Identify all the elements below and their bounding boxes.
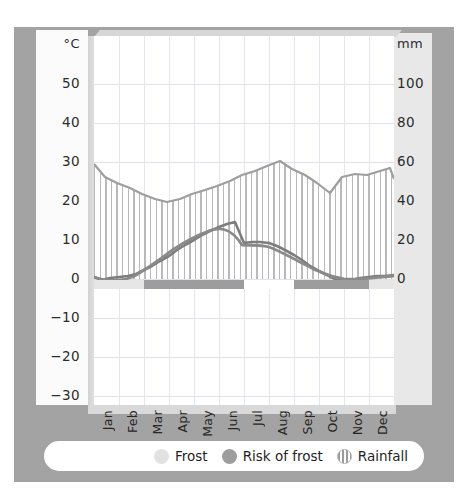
right-axis-tick-80: 80 xyxy=(397,114,415,130)
left-axis-tick-0: 0 xyxy=(71,270,80,286)
month-label-sep: Sep xyxy=(300,410,315,434)
legend-label-frost: Frost xyxy=(175,448,208,464)
right-axis-unit: mm xyxy=(397,36,423,51)
chart-legend: Frost Risk of frost Rainfall xyxy=(44,441,424,471)
left-axis-tick-50: 50 xyxy=(62,75,80,91)
left-axis-tick-m30: −30 xyxy=(50,387,80,403)
left-axis-unit: °C xyxy=(64,36,80,51)
right-axis-tick-0: 0 xyxy=(397,270,406,286)
frost-circle-icon xyxy=(154,449,169,464)
right-axis-tick-20: 20 xyxy=(397,231,415,247)
month-label-aug: Aug xyxy=(275,410,290,435)
month-label-oct: Oct xyxy=(325,410,340,433)
plot-area xyxy=(94,36,394,405)
risk-of-frost-circle-icon xyxy=(222,449,237,464)
right-axis-tick-60: 60 xyxy=(397,153,415,169)
month-label-nov: Nov xyxy=(350,410,365,435)
frost-segment-jul-aug xyxy=(244,280,294,289)
left-axis-tick-m20: −20 xyxy=(50,348,80,364)
month-label-jan: Jan xyxy=(100,410,115,430)
month-label-jun: Jun xyxy=(225,410,240,430)
month-label-jul: Jul xyxy=(250,410,265,426)
frost-segment-jan-feb xyxy=(94,280,144,289)
left-axis-tick-30: 30 xyxy=(62,153,80,169)
left-axis-tick-m10: −10 xyxy=(50,309,80,325)
right-axis-tick-40: 40 xyxy=(397,192,415,208)
legend-item-rainfall: Rainfall xyxy=(337,448,408,464)
legend-label-rainfall: Rainfall xyxy=(358,448,408,464)
right-axis-strip: mm 100 80 60 40 20 0 xyxy=(391,33,432,405)
month-label-dec: Dec xyxy=(375,410,390,435)
frost-segment-dec xyxy=(369,280,394,289)
month-label-feb: Feb xyxy=(125,410,140,433)
temperature-curve xyxy=(94,36,394,405)
frost-segment-sep-nov xyxy=(294,280,369,289)
legend-label-risk-of-frost: Risk of frost xyxy=(243,448,323,464)
climate-chart: °C 50 40 30 20 10 0 −10 −20 −30 mm 100 8… xyxy=(36,30,432,427)
legend-item-risk-of-frost: Risk of frost xyxy=(222,448,323,464)
left-axis-tick-40: 40 xyxy=(62,114,80,130)
month-label-apr: Apr xyxy=(175,410,190,433)
left-axis-tick-10: 10 xyxy=(62,231,80,247)
left-axis-tick-20: 20 xyxy=(62,192,80,208)
legend-item-frost: Frost xyxy=(154,448,208,464)
left-axis-strip: °C 50 40 30 20 10 0 −10 −20 −30 xyxy=(36,30,88,405)
frost-band xyxy=(94,280,394,289)
right-axis-tick-100: 100 xyxy=(397,75,424,91)
frost-segment-mar-jun xyxy=(144,280,244,289)
month-label-mar: Mar xyxy=(150,410,165,434)
month-label-may: May xyxy=(200,410,215,437)
rainfall-striped-circle-icon xyxy=(337,449,352,464)
